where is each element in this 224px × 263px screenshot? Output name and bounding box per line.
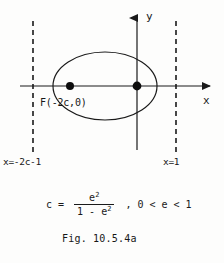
formula-condition: , 0 < e < 1 — [125, 199, 191, 210]
numerator-exponent: 2 — [95, 191, 99, 199]
denominator-exponent: 2 — [107, 205, 111, 213]
formula-lhs: c = — [46, 199, 64, 210]
x-axis-label: x — [203, 95, 210, 106]
denominator-lead: 1 - e — [77, 206, 107, 217]
origin-point-marker — [133, 82, 142, 91]
directrix-label-left: x=-2c-1 — [3, 157, 41, 167]
y-axis-label: y — [146, 11, 153, 22]
formula-fraction: e2 1 - e2 — [74, 192, 114, 217]
directrix-label-right: x=1 — [163, 157, 179, 167]
formula-denominator: 1 - e2 — [74, 205, 114, 217]
formula-numerator: e2 — [86, 192, 102, 204]
figure-caption: Fig. 10.5.4a — [62, 234, 137, 244]
eccentricity-formula: c = e2 1 - e2 , 0 < e < 1 — [46, 192, 192, 217]
focus-point-label: F(-2c,0) — [40, 98, 87, 108]
focus-point-marker — [66, 82, 74, 90]
figure-page: y x F(-2c,0) x=-2c-1 x=1 c = e2 1 - e2 ,… — [0, 0, 224, 263]
figure-canvas — [0, 0, 224, 263]
